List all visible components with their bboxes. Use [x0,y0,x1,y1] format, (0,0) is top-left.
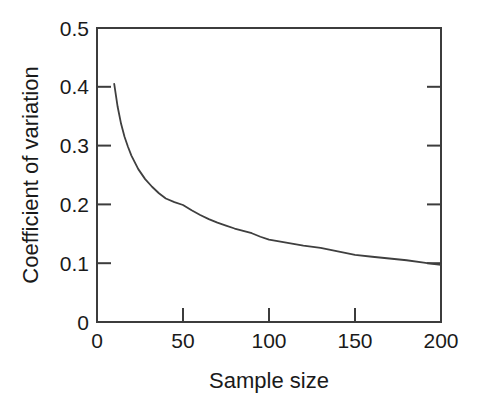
plot-frame [97,28,441,322]
x-tick-label-2: 100 [251,329,286,352]
y-axis-title: Coefficient of variation [18,66,43,283]
y-axis-ticks [97,28,111,322]
x-tick-label-4: 200 [423,329,458,352]
x-axis-title: Sample size [209,368,329,393]
data-line-coefficient-of-variation [114,84,441,265]
y-tick-label-0: 0 [77,311,89,334]
coefficient-of-variation-line-chart: 0 0.1 0.2 0.3 0.4 0.5 0 50 100 150 200 S… [0,0,482,405]
y-tick-label-1: 0.1 [60,252,89,275]
y-tick-label-5: 0.5 [60,17,89,40]
y-axis-ticks-right [427,87,441,263]
x-tick-label-0: 0 [91,329,103,352]
x-tick-label-3: 150 [337,329,372,352]
chart-figure: 0 0.1 0.2 0.3 0.4 0.5 0 50 100 150 200 S… [0,0,482,405]
x-axis-ticks [97,308,441,322]
y-tick-label-3: 0.3 [60,134,89,157]
y-tick-label-2: 0.2 [60,193,89,216]
x-tick-label-1: 50 [171,329,194,352]
y-tick-label-4: 0.4 [60,75,90,98]
